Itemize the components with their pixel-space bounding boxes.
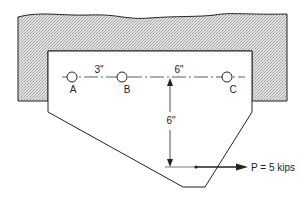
bolt-c-label: C [229,84,236,95]
bolt-a-label: A [70,84,77,95]
arrow-right-icon [236,164,248,171]
bolt-b-label: B [124,84,131,95]
bolt-c [222,72,232,82]
bolt-b [117,72,127,82]
load-label: P = 5 kips [251,162,295,173]
dim-ab-label: 3" [94,64,104,75]
bolt-a [67,72,77,82]
dim-horizontal-label: 6" [174,64,184,75]
dim-vertical-label: 6" [166,115,176,126]
bracket-diagram: A B C 3" 6" 6" P = 5 kips [0,0,307,197]
